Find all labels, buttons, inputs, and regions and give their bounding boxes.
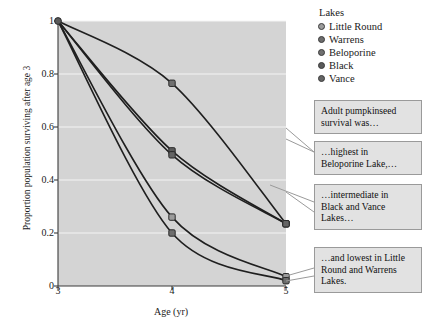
callout-line: Adult pumpkinseed (321, 105, 416, 117)
legend-item-label: Beloporine (329, 46, 376, 59)
legend-item-label: Black (329, 59, 354, 72)
marker-vance-age5 (283, 221, 289, 227)
leader-line-lowest (286, 268, 314, 276)
legend-item-label: Vance (329, 72, 355, 85)
callout-box-lowest: …and lowest in Little Round and Warrens … (314, 247, 422, 293)
legend-item-label: Warrens (329, 33, 364, 46)
legend: Lakes Little Round Warrens Beloporine Bl… (318, 6, 420, 85)
y-axis-title: Proportion population surviving after ag… (22, 33, 32, 263)
marker-beloporine-age4 (169, 80, 175, 86)
leader-line-highest-2 (286, 128, 314, 152)
callout-line: survival was… (321, 117, 416, 129)
callout-line: Beloporine Lake,… (321, 158, 416, 170)
legend-title: Lakes (319, 6, 420, 19)
x-tick-label-3: 3 (46, 286, 70, 296)
callout-line: …highest in (321, 146, 416, 158)
callout-line: Round and Warrens (321, 264, 416, 276)
x-axis-title: Age (yr) (56, 306, 286, 317)
callout-box-highest: …highest in Beloporine Lake,… (314, 141, 422, 175)
legend-item-vance[interactable]: Vance (318, 72, 420, 85)
marker-little-round-age4 (169, 214, 175, 220)
legend-marker-icon (318, 23, 325, 30)
leader-line-lowest-2 (286, 276, 314, 281)
callout-line: …intermediate in (321, 189, 416, 201)
legend-marker-icon (318, 75, 325, 82)
marker-vance-age4 (169, 152, 175, 158)
callout-line: Lakes… (321, 212, 416, 224)
x-tick-label-4: 4 (160, 286, 184, 296)
legend-marker-icon (318, 36, 325, 43)
legend-marker-icon (318, 62, 325, 69)
leader-line-intermediate-2 (286, 192, 314, 212)
legend-item-black[interactable]: Black (318, 59, 420, 72)
marker-warrens-age4 (169, 230, 175, 236)
marker-origin-age3 (55, 18, 62, 25)
leader-line-highest (286, 139, 314, 152)
y-tick-label-1: 1 (28, 16, 54, 26)
callout-line: Black and Vance (321, 201, 416, 213)
legend-item-little-round[interactable]: Little Round (318, 20, 420, 33)
y-tick-marks (54, 21, 58, 286)
legend-item-beloporine[interactable]: Beloporine (318, 46, 420, 59)
x-tick-label-5: 5 (274, 286, 298, 296)
callout-line: …and lowest in Little (321, 252, 416, 264)
figure: 1 0.8 0.6 0.4 0.2 0 3 4 5 Age (yr) Propo… (0, 0, 424, 331)
callout-box-intermediate: …intermediate in Black and Vance Lakes… (314, 184, 422, 230)
legend-item-warrens[interactable]: Warrens (318, 33, 420, 46)
callout-box-intro: Adult pumpkinseed survival was… (314, 100, 422, 134)
legend-item-label: Little Round (329, 20, 382, 33)
callout-line: Lakes. (321, 275, 416, 287)
legend-marker-icon (318, 49, 325, 56)
